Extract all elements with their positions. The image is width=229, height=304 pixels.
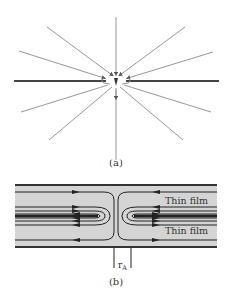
caption-a: (a) xyxy=(109,157,123,168)
figure-b-thin-film-diagram: Thin film Thin film rA xyxy=(15,185,217,272)
figure-a-field-diagram xyxy=(14,17,219,160)
figure-canvas: (a) xyxy=(0,0,229,304)
field-lines xyxy=(19,17,213,160)
center-point xyxy=(114,78,118,86)
radius-label: rA xyxy=(118,260,127,272)
lower-thin-film-label: Thin film xyxy=(165,225,208,236)
upper-thin-film-label: Thin film xyxy=(165,195,208,206)
caption-b: (b) xyxy=(109,276,123,287)
